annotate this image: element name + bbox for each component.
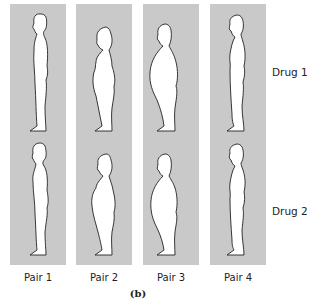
pair-2-drug-2-silhouette: [76, 140, 132, 262]
pair-4-panel: [210, 4, 266, 265]
pair-label-4: Pair 4: [203, 272, 273, 283]
pair-label-2: Pair 2: [69, 272, 139, 283]
row-label-drug-2: Drug 2: [272, 205, 308, 217]
pair-3-drug-1-silhouette: [143, 10, 199, 136]
pair-3-panel: [143, 4, 199, 265]
figure-caption: (b): [118, 288, 158, 299]
pair-2-drug-1-silhouette: [76, 10, 132, 136]
row-label-drug-1: Drug 1: [272, 66, 308, 78]
pair-label-3: Pair 3: [136, 272, 206, 283]
pair-label-1: Pair 1: [3, 272, 73, 283]
pair-4-drug-2-silhouette: [210, 140, 266, 262]
pair-2-panel: [76, 4, 132, 265]
pair-3-drug-2-silhouette: [143, 140, 199, 262]
pair-4-drug-1-silhouette: [210, 10, 266, 136]
pair-1-drug-2-silhouette: [10, 140, 66, 262]
pair-1-panel: [10, 4, 66, 265]
pair-1-drug-1-silhouette: [10, 10, 66, 136]
